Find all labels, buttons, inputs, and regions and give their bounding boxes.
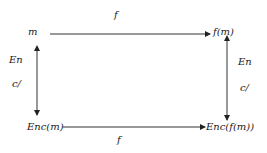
bottom-edge-label: f bbox=[117, 135, 121, 145]
node-enc-m: Enc(m) bbox=[27, 122, 64, 132]
left-edge-label-2: c/ bbox=[12, 79, 21, 89]
right-edge-label-2: c/ bbox=[240, 83, 249, 93]
node-f-of-m: f(m) bbox=[213, 27, 234, 37]
left-edge-label-1: En bbox=[9, 55, 23, 65]
right-edge-label-1: En bbox=[238, 57, 252, 67]
top-edge-label: f bbox=[114, 10, 118, 20]
node-m: m bbox=[28, 27, 37, 37]
node-enc-f-of-m: Enc(f(m)) bbox=[206, 122, 254, 132]
